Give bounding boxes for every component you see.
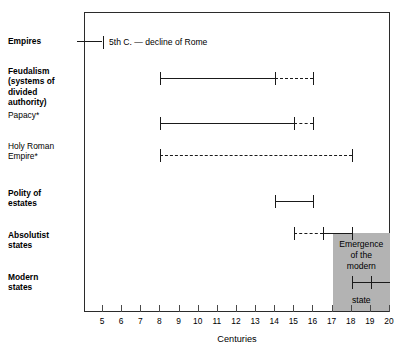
x-tick-label: 8: [157, 317, 162, 326]
x-tick-label: 9: [176, 317, 181, 326]
x-tick: [236, 305, 237, 312]
bar-endcap-papacy: [160, 117, 161, 130]
bar-endcap-holy-roman-empire: [352, 149, 353, 162]
bar-endcap-papacy: [294, 117, 295, 130]
bar-endcap-absolutist-states: [323, 227, 324, 240]
bar-endcap-empires: [103, 36, 104, 49]
x-tick: [102, 305, 103, 312]
bar-endcap-holy-roman-empire: [160, 149, 161, 162]
x-tick: [370, 305, 371, 312]
x-tick-label: 15: [289, 317, 298, 326]
x-tick-label: 10: [193, 317, 202, 326]
row-label-empires: Empires: [8, 36, 82, 46]
bar-segment-absolutist-states: [323, 233, 352, 234]
bar-segment-papacy: [160, 123, 294, 124]
bar-endcap-modern-states: [352, 276, 353, 289]
bar-endcap-polity-of-estates: [275, 195, 276, 208]
x-tick: [159, 305, 160, 312]
x-tick-label: 12: [231, 317, 240, 326]
x-tick: [179, 305, 180, 312]
row-label-feudalism: Feudalism (systems of divided authority): [8, 66, 82, 108]
x-tick-label: 6: [119, 317, 124, 326]
bar-endcap-papacy: [313, 117, 314, 130]
x-tick-label: 13: [250, 317, 259, 326]
x-tick-label: 7: [138, 317, 143, 326]
x-tick: [217, 305, 218, 312]
x-tick: [312, 305, 313, 312]
x-tick: [389, 305, 390, 312]
x-tick: [140, 305, 141, 312]
x-tick: [332, 305, 333, 312]
bar-endcap-polity-of-estates: [313, 195, 314, 208]
plot-area: Emergence of the modern state 5th C. — d…: [84, 12, 390, 312]
x-tick: [121, 305, 122, 312]
row-label-absolutist-states: Absolutist states: [8, 230, 82, 251]
bar-endcap-feudalism: [275, 72, 276, 85]
bar-endcap-feudalism: [313, 72, 314, 85]
x-tick-label: 17: [327, 317, 336, 326]
row-label-modern-states: Modern states: [8, 272, 82, 293]
x-tick: [255, 305, 256, 312]
x-tick: [274, 305, 275, 312]
x-tick-label: 14: [270, 317, 279, 326]
x-tick-label: 11: [212, 317, 221, 326]
bar-endcap-absolutist-states: [352, 227, 353, 240]
x-tick: [198, 305, 199, 312]
bar-segment-polity-of-estates: [275, 201, 313, 202]
row-label-papacy: Papacy*: [8, 110, 82, 120]
emergence-shaded-region: Emergence of the modern state: [333, 233, 390, 311]
x-tick-label: 5: [100, 317, 105, 326]
bar-note-empires: 5th C. — decline of Rome: [109, 37, 207, 47]
x-tick-label: 19: [365, 317, 374, 326]
bar-segment-empires: [77, 41, 102, 42]
bar-endcap-feudalism: [160, 72, 161, 85]
emergence-label: Emergence of the modern: [333, 239, 390, 272]
x-tick-label: 16: [308, 317, 317, 326]
x-tick: [293, 305, 294, 312]
x-tick-label: 20: [384, 317, 393, 326]
bar-endcap-absolutist-states: [294, 227, 295, 240]
bar-segment-feudalism: [275, 78, 313, 79]
x-tick-label: 18: [346, 317, 355, 326]
timeline-chart: Empires Feudalism (systems of divided au…: [0, 0, 404, 358]
bar-endcap-modern-states: [371, 276, 372, 289]
x-tick: [351, 305, 352, 312]
x-axis-title: Centuries: [84, 334, 390, 344]
bar-segment-holy-roman-empire: [160, 155, 351, 156]
row-label-holy-roman-empire: Holy Roman Empire*: [8, 141, 82, 162]
row-label-polity-of-estates: Polity of estates: [8, 188, 82, 209]
emergence-label-last: state: [333, 295, 390, 306]
bar-segment-absolutist-states: [294, 233, 323, 234]
bar-segment-feudalism: [160, 78, 275, 79]
bar-segment-papacy: [294, 123, 313, 124]
